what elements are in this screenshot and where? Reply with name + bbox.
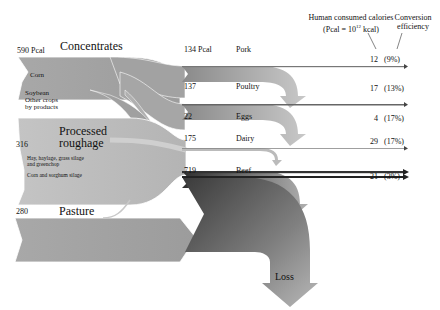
efficiency-pointer (397, 33, 402, 49)
eggs-output-bar (182, 148, 404, 149)
pork-value: 134 Pcal (184, 46, 212, 54)
calories-pointer (368, 33, 376, 49)
eggs-node (182, 148, 282, 166)
roughage-sub-silage: Corn and sorghum silage (27, 172, 82, 178)
poultry-human-calories: 17 (358, 85, 378, 93)
pork-label: Pork (236, 46, 251, 54)
beef-human-calories: 21 (358, 173, 378, 181)
pasture-value: 280 (16, 208, 28, 216)
poultry-output-bar (182, 104, 404, 106)
eggs-human-calories: 4 (358, 115, 378, 123)
efficiency-header: Conversion efficiency (388, 13, 438, 31)
pasture-title: Pasture (59, 205, 94, 217)
beef-efficiency: (3%) (384, 173, 420, 181)
roughage-value: 316 (16, 141, 28, 149)
efficiency-header-line2: efficiency (388, 22, 438, 31)
pork-human-calories: 12 (358, 56, 378, 64)
roughage-title-line2: roughage (59, 137, 104, 149)
beef-label: Beef (236, 167, 251, 175)
dairy-value: 175 (184, 135, 196, 143)
dairy-label: Dairy (236, 135, 254, 143)
poultry-efficiency: (13%) (384, 85, 420, 93)
concentrates-sub-corn: Corn (30, 72, 44, 79)
pork-efficiency: (9%) (384, 56, 420, 64)
concentrates-title: Concentrates (60, 40, 123, 52)
pasture-band (15, 218, 196, 262)
eggs-value: 22 (184, 113, 192, 121)
eggs-efficiency: (17%) (384, 115, 420, 123)
poultry-label: Poultry (236, 83, 260, 91)
beef-value: 719 (184, 167, 196, 175)
dairy-human-calories: 29 (358, 138, 378, 146)
concentrates-value: 590 Pcal (17, 47, 45, 55)
poultry-value: 137 (184, 83, 196, 91)
pork-output-bar (182, 66, 404, 67)
concentrates-sub-byproducts: by products (25, 104, 58, 111)
efficiency-header-line1: Conversion (388, 13, 438, 22)
roughage-sub-greenchop: and greenchop (27, 161, 59, 167)
loss-label: Loss (275, 272, 294, 282)
dairy-efficiency: (17%) (384, 138, 420, 146)
eggs-label: Eggs (236, 113, 252, 121)
